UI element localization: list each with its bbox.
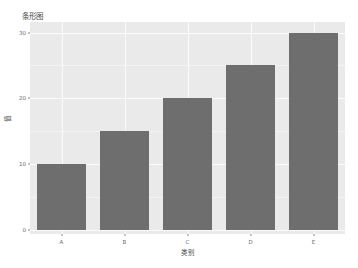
x-tick-label-e: E	[312, 239, 315, 245]
x-tick-mark	[250, 234, 251, 236]
x-tick-mark	[61, 234, 62, 236]
x-axis-label: 类别	[30, 247, 345, 257]
y-tick-label: 0	[23, 227, 27, 233]
x-tick-label-c: C	[186, 239, 190, 245]
plot-panel	[30, 22, 345, 234]
y-tick-label: 10	[19, 161, 26, 167]
x-tick-label-a: A	[60, 239, 64, 245]
y-tick-label: 20	[19, 95, 26, 101]
y-tick-mark	[28, 164, 30, 165]
y-tick-label: 30	[19, 30, 26, 36]
x-tick-mark	[187, 234, 188, 236]
bar-b	[100, 131, 149, 230]
x-tick-mark	[124, 234, 125, 236]
x-axis: ABCDE	[30, 234, 345, 248]
y-tick-mark	[28, 32, 30, 33]
bar-d	[226, 65, 275, 230]
chart-title: 条形图	[22, 10, 44, 21]
x-tick-mark	[313, 234, 314, 236]
x-tick-label-b: B	[123, 239, 127, 245]
bar-a	[37, 164, 86, 230]
y-axis: 0102030	[0, 22, 30, 234]
bar-c	[163, 98, 212, 230]
y-tick-mark	[28, 98, 30, 99]
bar-chart-figure: 条形图 0102030 ABCDE 类别 值	[0, 0, 358, 268]
bar-series	[30, 22, 345, 234]
y-axis-label: 值	[2, 115, 12, 122]
bar-e	[289, 33, 338, 230]
x-tick-label-d: D	[248, 239, 252, 245]
y-tick-mark	[28, 230, 30, 231]
